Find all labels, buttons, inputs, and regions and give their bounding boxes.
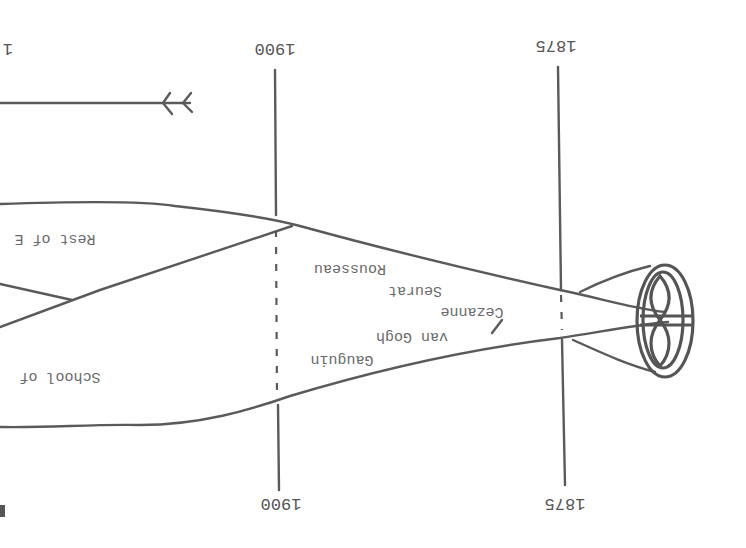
label-school-of: School of bbox=[19, 368, 100, 385]
label-van-gogh: van Gogh bbox=[376, 328, 448, 345]
year-label-1875-bottom: 1875 bbox=[545, 494, 586, 513]
knot-icon bbox=[637, 265, 693, 377]
year-label-1875-top: 1875 bbox=[536, 36, 577, 55]
label-seurat: Seurat bbox=[388, 282, 442, 299]
branch-line-school bbox=[0, 284, 72, 300]
year-line-1875-top bbox=[558, 67, 561, 290]
cezanne-pointer bbox=[492, 320, 502, 333]
year-line-1900-dashed bbox=[276, 230, 277, 395]
knot-upper-strand bbox=[580, 266, 650, 292]
year-line-1900-bottom bbox=[278, 405, 279, 490]
year-label-left-top: 1 bbox=[3, 39, 13, 58]
label-cezanne: Cezanne bbox=[440, 303, 503, 320]
diagram-canvas: 1900 1875 1 1900 1875 Rest of E School o… bbox=[0, 0, 746, 548]
label-rest-of-europe: Rest of E bbox=[14, 230, 95, 247]
label-gauguin: Gauguin bbox=[310, 351, 373, 368]
label-rousseau: Rousseau bbox=[314, 260, 386, 277]
year-line-1875-bottom bbox=[562, 340, 565, 485]
year-label-1900-bottom: 1900 bbox=[261, 494, 302, 513]
year-label-1900-top: 1900 bbox=[255, 39, 296, 58]
year-line-1875-dashed bbox=[561, 295, 562, 330]
upper-stream-curve bbox=[0, 202, 665, 312]
flow-diagram: 1900 1875 1 1900 1875 Rest of E School o… bbox=[0, 0, 746, 548]
year-line-1900-top bbox=[275, 70, 276, 215]
edge-mark bbox=[0, 505, 5, 517]
